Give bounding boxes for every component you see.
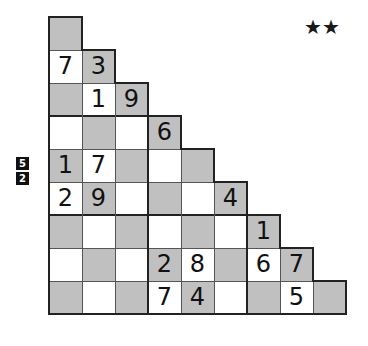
grid-border bbox=[48, 313, 347, 315]
grid-line bbox=[280, 248, 281, 281]
grid-border bbox=[81, 16, 83, 51]
grid-line bbox=[181, 149, 182, 182]
grid-cell-r8c4[interactable]: 4 bbox=[181, 281, 214, 314]
grid-border bbox=[114, 82, 149, 84]
grid-cell-r8c8[interactable] bbox=[313, 281, 346, 314]
grid-cell-r7c3[interactable]: 2 bbox=[148, 248, 181, 281]
grid-line bbox=[82, 182, 83, 215]
grid-line bbox=[214, 182, 215, 215]
grid-border bbox=[246, 181, 248, 216]
grid-cell-r6c4[interactable] bbox=[181, 215, 214, 248]
difficulty-stars: ★★ bbox=[304, 17, 340, 37]
grid-cell-r4c0[interactable]: 1 bbox=[49, 149, 82, 182]
grid-cell-r7c0[interactable] bbox=[49, 248, 82, 281]
box-divider bbox=[147, 248, 149, 281]
grid-cell-r7c4[interactable]: 8 bbox=[181, 248, 214, 281]
grid-cell-r8c0[interactable] bbox=[49, 281, 82, 314]
grid-cell-r3c2[interactable] bbox=[115, 116, 148, 149]
grid-cell-r4c2[interactable] bbox=[115, 149, 148, 182]
grid-border bbox=[312, 247, 314, 282]
grid-cell-r8c3[interactable]: 7 bbox=[148, 281, 181, 314]
grid-border bbox=[279, 247, 314, 249]
grid-cell-r5c0[interactable]: 2 bbox=[49, 182, 82, 215]
grid-line bbox=[115, 83, 116, 116]
grid-cell-r3c3[interactable]: 6 bbox=[148, 116, 181, 149]
grid-border bbox=[48, 16, 50, 315]
box-divider bbox=[147, 281, 149, 314]
grid-border bbox=[81, 49, 116, 51]
box-divider bbox=[147, 182, 149, 215]
grid-border bbox=[246, 214, 281, 216]
box-divider bbox=[147, 116, 149, 149]
grid-cell-r4c4[interactable] bbox=[181, 149, 214, 182]
grid-line bbox=[181, 248, 182, 281]
grid-line bbox=[313, 281, 314, 314]
grid-cell-r3c1[interactable] bbox=[82, 116, 115, 149]
grid-cell-r6c1[interactable] bbox=[82, 215, 115, 248]
grid-cell-r8c6[interactable] bbox=[247, 281, 280, 314]
grid-cell-r6c5[interactable] bbox=[214, 215, 247, 248]
grid-line bbox=[82, 248, 83, 281]
grid-border bbox=[213, 181, 248, 183]
grid-cell-r8c7[interactable]: 5 bbox=[280, 281, 313, 314]
grid-border bbox=[213, 148, 215, 183]
box-divider bbox=[246, 281, 248, 314]
grid-border bbox=[147, 82, 149, 117]
box-divider bbox=[49, 115, 148, 117]
grid-cell-r1c1[interactable]: 3 bbox=[82, 50, 115, 83]
grid-cell-r2c0[interactable] bbox=[49, 83, 82, 116]
grid-cell-r3c0[interactable] bbox=[49, 116, 82, 149]
grid-cell-r5c2[interactable] bbox=[115, 182, 148, 215]
clue-badge: 2 bbox=[16, 172, 29, 185]
grid-cell-r1c0[interactable]: 7 bbox=[49, 50, 82, 83]
grid-cell-r5c5[interactable]: 4 bbox=[214, 182, 247, 215]
grid-cell-r8c2[interactable] bbox=[115, 281, 148, 314]
grid-cell-r7c1[interactable] bbox=[82, 248, 115, 281]
grid-line bbox=[115, 149, 116, 182]
grid-line bbox=[82, 281, 83, 314]
grid-cell-r7c7[interactable]: 7 bbox=[280, 248, 313, 281]
grid-line bbox=[214, 215, 215, 248]
grid-cell-r7c2[interactable] bbox=[115, 248, 148, 281]
grid-line bbox=[115, 248, 116, 281]
grid-line bbox=[115, 182, 116, 215]
grid-cell-r4c3[interactable] bbox=[148, 149, 181, 182]
grid-cell-r5c3[interactable] bbox=[148, 182, 181, 215]
grid-line bbox=[181, 182, 182, 215]
grid-cell-r5c4[interactable] bbox=[181, 182, 214, 215]
box-divider bbox=[147, 149, 149, 182]
grid-cell-r6c0[interactable] bbox=[49, 215, 82, 248]
grid-line bbox=[82, 83, 83, 116]
grid-cell-r0c0[interactable] bbox=[49, 17, 82, 50]
grid-line bbox=[82, 149, 83, 182]
grid-cell-r7c5[interactable] bbox=[214, 248, 247, 281]
clue-list: 5 2 bbox=[16, 157, 30, 187]
grid-cell-r8c5[interactable] bbox=[214, 281, 247, 314]
grid-cell-r2c1[interactable]: 1 bbox=[82, 83, 115, 116]
grid-cell-r8c1[interactable] bbox=[82, 281, 115, 314]
grid-border bbox=[48, 16, 83, 18]
grid-line bbox=[214, 248, 215, 281]
clue-badge: 5 bbox=[16, 157, 29, 170]
grid-cell-r4c1[interactable]: 7 bbox=[82, 149, 115, 182]
grid-cell-r6c6[interactable]: 1 bbox=[247, 215, 280, 248]
grid-border bbox=[312, 280, 347, 282]
box-divider bbox=[147, 215, 149, 248]
box-divider bbox=[246, 215, 248, 248]
grid-line bbox=[115, 281, 116, 314]
grid-line bbox=[181, 215, 182, 248]
grid-line bbox=[115, 116, 116, 149]
grid-line bbox=[49, 182, 214, 183]
grid-cell-r6c2[interactable] bbox=[115, 215, 148, 248]
grid-border bbox=[345, 280, 347, 315]
grid-border bbox=[180, 115, 182, 150]
grid-border bbox=[114, 49, 116, 84]
grid-border bbox=[147, 115, 182, 117]
grid-cell-r2c2[interactable]: 9 bbox=[115, 83, 148, 116]
grid-line bbox=[82, 50, 83, 83]
grid-cell-r6c3[interactable] bbox=[148, 215, 181, 248]
grid-cell-r7c6[interactable]: 6 bbox=[247, 248, 280, 281]
grid-cell-r5c1[interactable]: 9 bbox=[82, 182, 115, 215]
grid-line bbox=[115, 215, 116, 248]
grid-line bbox=[181, 281, 182, 314]
